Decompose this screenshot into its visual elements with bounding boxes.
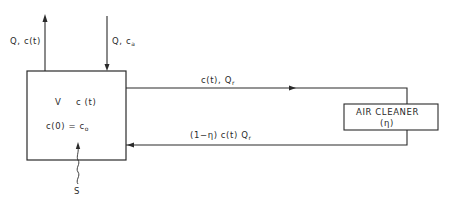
recirc-return-label: (1−η) c(t) Qr <box>190 131 251 141</box>
inflow-subscript: a <box>131 40 135 47</box>
room-concentration-label: c (t) <box>76 98 96 107</box>
air-cleaner-efficiency: (η) <box>380 119 394 128</box>
recirc-return-arrow-icon <box>127 143 134 148</box>
inflow-label-text: Q, c <box>112 36 131 46</box>
diagram-canvas <box>0 0 450 205</box>
recirc-out-label: c(t), Qr <box>201 76 234 86</box>
inflow-arrow-icon <box>105 64 110 71</box>
source-arrow-icon <box>76 142 80 149</box>
air-cleaner-title: AIR CLEANER <box>356 108 419 117</box>
air-cleaner-title-text: AIR CLEANER <box>356 107 419 117</box>
source-text: S <box>74 186 80 196</box>
outflow-label-text: Q, c(t) <box>10 36 41 46</box>
room-volume-label: V <box>55 98 61 107</box>
recirc-return-text: (1−η) c(t) Q <box>190 130 248 140</box>
concentration-text: c (t) <box>76 97 96 107</box>
initial-condition-subscript: o <box>85 125 89 132</box>
outflow-arrow-icon <box>43 14 48 22</box>
inflow-label: Q, ca <box>112 37 135 47</box>
initial-condition-text: c(0) = c <box>46 121 85 131</box>
source-squiggle <box>77 148 79 184</box>
room-box <box>27 71 126 160</box>
recirc-out-line <box>126 88 407 104</box>
outflow-label: Q, c(t) <box>10 37 41 46</box>
recirc-out-arrow-icon <box>289 86 296 91</box>
volume-text: V <box>55 97 61 107</box>
recirc-return-line <box>126 130 407 145</box>
recirc-out-text: c(t), Q <box>201 75 232 85</box>
air-cleaner-efficiency-text: (η) <box>380 118 394 128</box>
source-label: S <box>74 187 80 196</box>
recirc-return-subscript: r <box>248 134 250 141</box>
recirc-out-subscript: r <box>232 79 234 86</box>
initial-condition-label: c(0) = co <box>46 122 88 132</box>
